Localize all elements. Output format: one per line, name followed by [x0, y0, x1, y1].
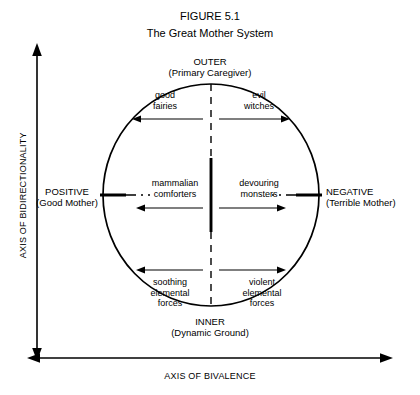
arrow-violent-elemental-forces: [219, 267, 286, 274]
quadrant-label-soothing-elemental-forces: soothing elemental forces: [130, 277, 210, 309]
pole-label-negative: NEGATIVE (Terrible Mother): [326, 186, 418, 208]
quadrant-label-evil-witches: evil witches: [222, 90, 296, 111]
figure-canvas: FIGURE 5.1 The Great Mother System OUTER…: [0, 0, 420, 395]
axis-label-bidirectionality: AXIS OF BIDIRECTIONALITY: [18, 110, 29, 280]
arrow-evil-witches: [219, 116, 290, 123]
arrow-good-fairies: [132, 116, 203, 123]
horizontal-axis-arrow: [27, 353, 393, 363]
pole-label-positive: POSITIVE (Good Mother): [24, 186, 110, 208]
page-title: The Great Mother System: [0, 27, 420, 40]
quadrant-label-good-fairies: good fairies: [128, 90, 202, 111]
arrow-mammalian-comforters: [136, 205, 203, 212]
figure-number: FIGURE 5.1: [0, 10, 420, 23]
pole-label-inner: INNER (Dynamic Ground): [0, 316, 420, 338]
quadrant-label-mammalian-comforters: mammalian comforters: [134, 178, 216, 199]
quadrant-label-devouring-monsters: devouring monsters: [218, 178, 300, 199]
arrow-devouring-monsters: [219, 205, 286, 212]
pole-label-outer: OUTER (Primary Caregiver): [0, 56, 420, 78]
axis-label-bivalence: AXIS OF BIVALENCE: [0, 371, 420, 382]
quadrant-label-violent-elemental-forces: violent elemental forces: [222, 277, 302, 309]
arrow-soothing-elemental-forces: [136, 267, 203, 274]
